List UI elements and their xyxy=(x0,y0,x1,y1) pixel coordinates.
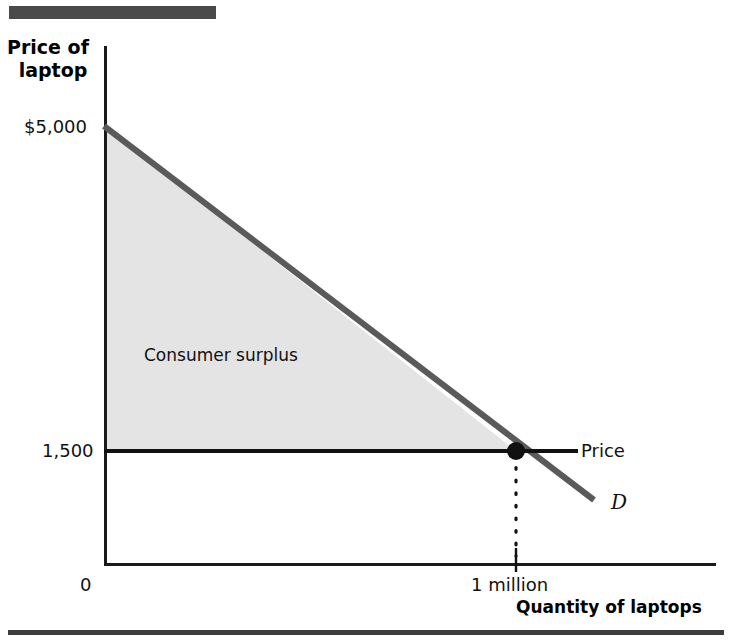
consumer-surplus-label: Consumer surplus xyxy=(144,345,298,365)
x-axis-title: Quantity of laptops xyxy=(516,597,702,617)
y-tick-label-1500: 1,500 xyxy=(42,440,94,461)
price-line-label: Price xyxy=(581,440,625,461)
equilibrium-point-marker xyxy=(507,442,525,460)
demand-curve-label: D xyxy=(611,490,627,514)
x-tick-label-0: 0 xyxy=(80,574,91,595)
y-tick-label-5000: $5,000 xyxy=(24,116,87,137)
bottom-divider xyxy=(8,630,724,635)
figure-root: Price of laptop $5,000 1,500 0 1 million… xyxy=(0,0,732,641)
plot-area xyxy=(0,0,732,641)
x-tick-label-1-million: 1 million xyxy=(471,574,548,595)
